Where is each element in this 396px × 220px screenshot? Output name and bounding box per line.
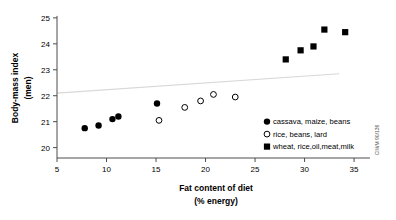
y-tick-label: 21	[41, 118, 50, 127]
data-point	[109, 116, 115, 122]
data-point	[342, 29, 348, 35]
legend-label: rice, beans, lard	[273, 130, 327, 139]
x-tick-label: 35	[350, 165, 359, 174]
legend-entry-1: rice, beans, lard	[264, 130, 327, 139]
data-point	[211, 92, 217, 98]
legend-marker-open-circle	[264, 131, 270, 137]
x-tick-label: 10	[102, 165, 111, 174]
y-tick-label: 20	[41, 144, 50, 153]
x-tick-label: 15	[152, 165, 161, 174]
data-point	[115, 113, 121, 119]
data-point	[298, 47, 304, 53]
y-tick-label: 23	[41, 66, 50, 75]
data-point	[310, 43, 316, 49]
legend-entry-2: wheat, rice,oil,meat,milk	[264, 142, 354, 151]
chart-figure: 202122232425 5101520253035 Body-mass ind…	[0, 0, 396, 220]
x-tick-label: 25	[251, 165, 260, 174]
y-axis-subtitle: (men)	[23, 76, 33, 99]
legend-marker-filled-square	[264, 144, 270, 150]
data-point	[198, 98, 204, 104]
data-point	[95, 122, 101, 128]
x-axis-title: Fat content of diet	[179, 183, 253, 193]
legend-label: cassava, maize, beans	[273, 117, 350, 126]
data-point	[232, 94, 238, 100]
legend-entry-0: cassava, maize, beans	[264, 117, 351, 126]
data-point	[182, 105, 188, 111]
data-point	[321, 26, 327, 32]
legend-label: wheat, rice,oil,meat,milk	[272, 142, 354, 151]
x-tick-label: 5	[55, 165, 60, 174]
x-axis-subtitle: (% energy)	[194, 196, 238, 206]
y-tick-label: 22	[41, 92, 50, 101]
data-point	[283, 56, 289, 62]
y-tick-label: 25	[41, 14, 50, 23]
data-point	[82, 125, 88, 131]
legend-marker-filled-circle	[264, 118, 270, 124]
data-point	[154, 100, 160, 106]
data-point	[156, 117, 162, 123]
scatter-plot-svg: 202122232425 5101520253035 Body-mass ind…	[0, 0, 396, 220]
y-tick-label: 24	[41, 40, 50, 49]
y-axis-title: Body-mass index	[10, 53, 20, 124]
x-tick-label: 20	[201, 165, 210, 174]
credit-label: CIWM 90/136	[374, 125, 380, 156]
x-tick-label: 30	[300, 165, 309, 174]
